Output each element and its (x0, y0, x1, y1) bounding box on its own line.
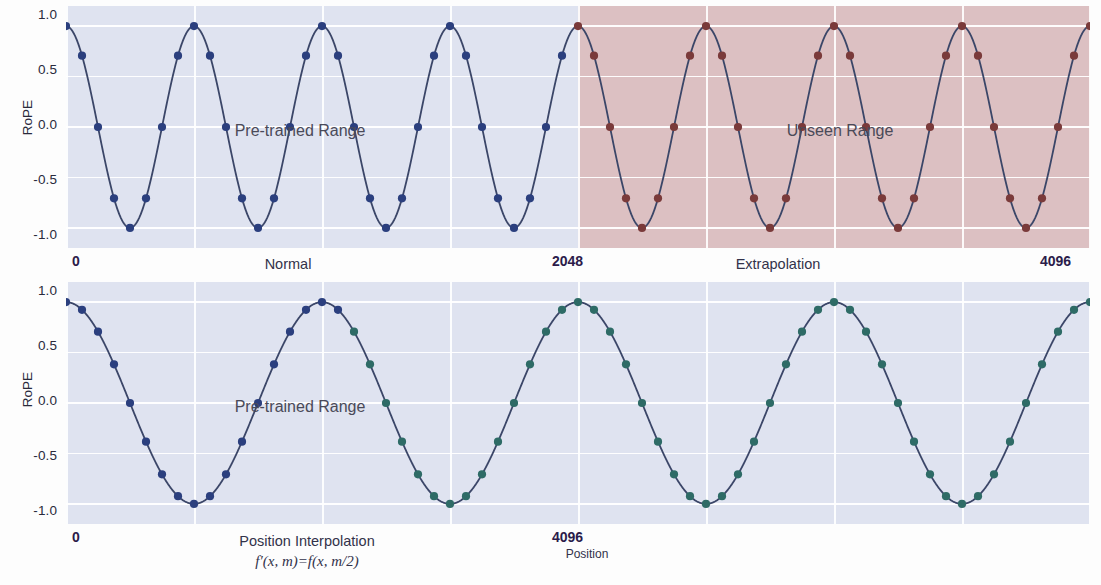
data-point (142, 438, 150, 446)
data-point (654, 438, 662, 446)
data-point (78, 52, 86, 60)
y-axis-label-bottom: RoPE (20, 355, 35, 425)
data-point (574, 22, 582, 30)
data-point (1022, 224, 1030, 232)
data-point (622, 360, 630, 368)
data-point (670, 470, 678, 478)
data-point (174, 52, 182, 60)
rope-extrapolation-figure: RoPE 1.0 0.5 0.0 -0.5 -1.0 Pre-trained R… (0, 0, 1101, 585)
x-tick-top-0: 0 (72, 253, 80, 269)
data-point (814, 52, 822, 60)
data-point (302, 52, 310, 60)
data-point (958, 22, 966, 30)
data-point (494, 438, 502, 446)
data-point (542, 123, 550, 131)
data-point (66, 298, 70, 306)
data-point (702, 22, 710, 30)
data-point (334, 306, 342, 314)
data-point (974, 52, 982, 60)
data-point (718, 492, 726, 500)
data-point (1038, 360, 1046, 368)
data-point (478, 470, 486, 478)
y-tick-bottom-4: -1.0 (5, 503, 57, 518)
data-point (126, 399, 134, 407)
data-point (1054, 123, 1062, 131)
data-point (1006, 194, 1014, 202)
data-point (654, 194, 662, 202)
data-point (830, 298, 838, 306)
data-point (398, 194, 406, 202)
panel-position-interpolation: RoPE 1.0 0.5 0.0 -0.5 -1.0 Pre-trained R… (0, 272, 1101, 585)
data-point (846, 306, 854, 314)
data-point (66, 22, 70, 30)
data-point (638, 224, 646, 232)
data-point (862, 328, 870, 336)
data-point (446, 500, 454, 508)
interpolation-formula: f′(x, m)=f(x, m/2) (207, 553, 407, 570)
data-point (846, 52, 854, 60)
caption-normal: Normal (188, 256, 388, 272)
data-point (430, 492, 438, 500)
data-point (206, 492, 214, 500)
data-point (1086, 298, 1090, 306)
data-point (158, 123, 166, 131)
data-point (590, 306, 598, 314)
caption-extrapolation: Extrapolation (678, 256, 878, 272)
y-tick-bottom-2: 0.0 (5, 393, 57, 408)
data-point (686, 52, 694, 60)
caption-position-interpolation: Position Interpolation (207, 533, 407, 549)
data-point (670, 123, 678, 131)
data-point (78, 306, 86, 314)
axis-title-position: Position (537, 547, 637, 561)
data-point (414, 470, 422, 478)
data-point (830, 22, 838, 30)
data-point (462, 52, 470, 60)
data-point (750, 438, 758, 446)
data-point (1006, 438, 1014, 446)
data-point (1070, 306, 1078, 314)
x-tick-top-2048: 2048 (552, 253, 583, 269)
data-point (414, 123, 422, 131)
data-point (878, 194, 886, 202)
x-tick-bottom-4096: 4096 (552, 529, 583, 545)
y-tick-top-1: 0.5 (5, 62, 57, 77)
data-point (590, 52, 598, 60)
data-point (222, 470, 230, 478)
data-point (910, 438, 918, 446)
data-point (702, 500, 710, 508)
data-point (1086, 22, 1090, 30)
data-point (814, 306, 822, 314)
data-point (494, 194, 502, 202)
data-point (238, 438, 246, 446)
data-point (142, 194, 150, 202)
annotation-pretrained-range-top: Pre-trained Range (200, 122, 400, 140)
data-point (334, 52, 342, 60)
data-point (750, 194, 758, 202)
data-point (878, 360, 886, 368)
data-point (110, 360, 118, 368)
data-point (526, 360, 534, 368)
data-point (990, 470, 998, 478)
y-tick-bottom-1: 0.5 (5, 338, 57, 353)
data-point (110, 194, 118, 202)
data-point (510, 224, 518, 232)
data-point (638, 399, 646, 407)
y-tick-bottom-3: -0.5 (5, 448, 57, 463)
data-point (478, 123, 486, 131)
data-point (462, 492, 470, 500)
y-tick-top-4: -1.0 (5, 227, 57, 242)
data-point (526, 194, 534, 202)
data-point (542, 328, 550, 336)
annotation-unseen-range-top: Unseen Range (740, 122, 940, 140)
data-point (398, 438, 406, 446)
data-point (958, 500, 966, 508)
data-point (174, 492, 182, 500)
data-point (430, 52, 438, 60)
data-point (718, 52, 726, 60)
y-tick-top-0: 1.0 (5, 7, 57, 22)
data-point (782, 194, 790, 202)
data-point (910, 194, 918, 202)
data-point (270, 360, 278, 368)
data-point (766, 224, 774, 232)
y-tick-bottom-0: 1.0 (5, 283, 57, 298)
